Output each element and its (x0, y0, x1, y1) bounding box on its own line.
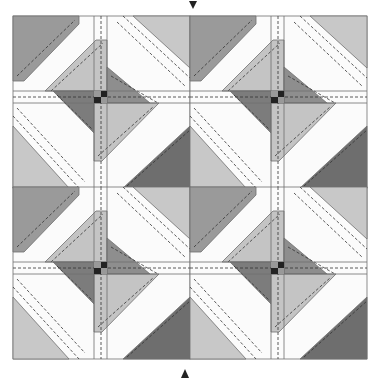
quilt-block-top-left (13, 16, 190, 188)
quilt-block-bottom-right (190, 187, 367, 359)
quilt-block-bottom-left (13, 187, 190, 359)
quilt-block-top-right (190, 16, 367, 188)
quilt-diagram (0, 0, 385, 379)
bottom-orientation-arrow-icon (181, 369, 189, 378)
